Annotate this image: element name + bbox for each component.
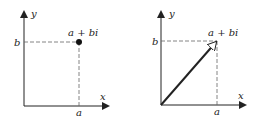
y-tick-label: b bbox=[14, 37, 20, 48]
x-axis-label: x bbox=[100, 91, 106, 102]
x-axis-label: x bbox=[238, 90, 244, 101]
diagram-vector: y x a + bi b a bbox=[152, 8, 245, 117]
y-axis-label: y bbox=[168, 8, 175, 19]
vector-arrow bbox=[161, 42, 216, 105]
point-label: a + bi bbox=[208, 27, 238, 38]
x-tick-label: a bbox=[214, 106, 220, 117]
y-axis-label: y bbox=[30, 8, 37, 19]
point-dot bbox=[76, 39, 82, 45]
diagram-point: y x a + bi b a bbox=[14, 8, 108, 118]
y-tick-label: b bbox=[152, 36, 158, 47]
point-label: a + bi bbox=[68, 27, 98, 38]
complex-plane-figure: y x a + bi b a y x a + bi b a bbox=[0, 0, 256, 118]
x-tick-label: a bbox=[76, 107, 82, 118]
